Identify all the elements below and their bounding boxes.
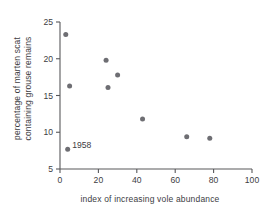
data-point — [106, 85, 111, 90]
data-points-layer — [63, 32, 212, 152]
x-axis: 020406080100 — [58, 169, 260, 185]
x-axis-tick-label: 0 — [58, 175, 63, 185]
x-axis-tick-label: 40 — [132, 175, 142, 185]
plot-canvas: 510152025 020406080100 1958 — [0, 0, 265, 216]
annotations-layer: 1958 — [72, 140, 91, 150]
y-axis-tick-label: 20 — [43, 54, 53, 64]
x-axis-tick-label: 80 — [209, 175, 219, 185]
y-axis-tick-label: 15 — [43, 91, 53, 101]
data-point — [184, 134, 189, 139]
y-axis-tick-label: 5 — [48, 164, 53, 174]
data-point — [207, 136, 212, 141]
y-axis: 510152025 — [43, 17, 60, 174]
scatter-plot-figure: percentage of marten scat containing gro… — [0, 0, 265, 216]
point-annotation-label: 1958 — [72, 140, 91, 150]
x-axis-tick-label: 60 — [170, 175, 180, 185]
x-axis-tick-label: 100 — [245, 175, 260, 185]
data-point — [140, 117, 145, 122]
data-point — [67, 83, 72, 88]
x-axis-tick-label: 20 — [94, 175, 104, 185]
y-axis-tick-label: 10 — [43, 127, 53, 137]
data-point — [65, 147, 70, 152]
y-axis-tick-label: 25 — [43, 17, 53, 27]
data-point — [63, 32, 68, 37]
data-point — [115, 72, 120, 77]
data-point — [104, 58, 109, 63]
